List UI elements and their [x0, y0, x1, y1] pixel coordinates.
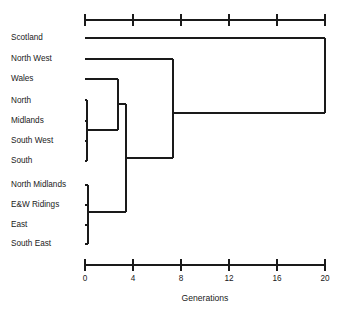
- top-axis: [85, 14, 325, 26]
- bottom-axis: 0 4 8 12 16 20: [83, 259, 330, 283]
- leaf-label-north-midlands: North Midlands: [11, 180, 66, 189]
- xtick-label-20: 20: [320, 274, 330, 283]
- leaf-label-wales: Wales: [11, 74, 33, 83]
- leaf-label-south: South: [11, 156, 33, 165]
- dendrogram-tree: [85, 38, 325, 244]
- leaf-label-south-east: South East: [11, 239, 52, 248]
- dendrogram-figure: Scotland North West Wales North Midlands…: [0, 0, 350, 312]
- leaf-label-north-west: North West: [11, 54, 53, 63]
- xtick-label-0: 0: [83, 274, 88, 283]
- xtick-label-4: 4: [131, 274, 136, 283]
- leaf-label-south-west: South West: [11, 136, 54, 145]
- x-axis-title: Generations: [182, 293, 229, 303]
- xtick-label-12: 12: [224, 274, 234, 283]
- leaf-label-midlands: Midlands: [11, 116, 44, 125]
- xtick-label-8: 8: [179, 274, 184, 283]
- leaf-label-scotland: Scotland: [11, 33, 43, 42]
- leaf-label-east: East: [11, 220, 28, 229]
- leaf-label-north: North: [11, 96, 31, 105]
- xtick-label-16: 16: [272, 274, 282, 283]
- leaf-labels: Scotland North West Wales North Midlands…: [11, 33, 66, 248]
- leaf-label-ew-ridings: E&W Ridings: [11, 200, 59, 209]
